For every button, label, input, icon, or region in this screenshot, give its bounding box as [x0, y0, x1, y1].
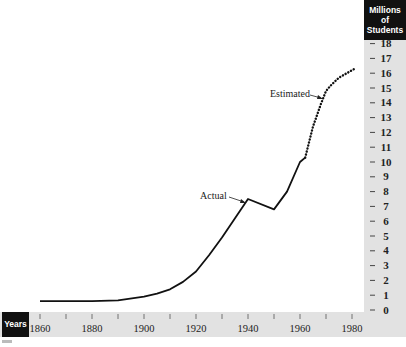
y-tick-label: 15 [381, 82, 393, 94]
y-tick-label: 13 [381, 111, 393, 123]
y-tick-label: 8 [383, 185, 389, 197]
x-tick-label: 1900 [134, 323, 155, 334]
y-tick-label: 3 [383, 259, 389, 271]
x-axis-ticks: 1860188019001920194019601980 [30, 314, 363, 334]
y-tick-label: 9 [383, 170, 389, 182]
x-tick-label: 1860 [30, 323, 51, 334]
y-tick-label: 12 [381, 126, 393, 138]
axes-overlay: 1860188019001920194019601980 01234567891… [0, 0, 406, 347]
y-tick-label: 1 [383, 289, 389, 301]
y-tick-label: 18 [381, 37, 393, 49]
x-tick-label: 1960 [290, 323, 311, 334]
y-tick-label: 0 [383, 304, 389, 316]
y-tick-label: 5 [383, 230, 389, 242]
x-tick-label: 1940 [238, 323, 259, 334]
y-tick-label: 6 [383, 215, 389, 227]
y-axis-ticks: 0123456789101112131415161718 [370, 37, 392, 315]
y-tick-label: 10 [381, 156, 393, 168]
x-tick-label: 1980 [342, 323, 363, 334]
y-tick-label: 16 [381, 67, 393, 79]
y-tick-label: 17 [381, 52, 393, 64]
y-tick-label: 11 [381, 141, 391, 153]
y-tick-label: 2 [383, 274, 389, 286]
x-tick-label: 1920 [186, 323, 207, 334]
y-tick-label: 7 [383, 200, 389, 212]
y-tick-label: 14 [381, 96, 393, 108]
y-tick-label: 4 [383, 244, 389, 256]
x-tick-label: 1880 [82, 323, 103, 334]
